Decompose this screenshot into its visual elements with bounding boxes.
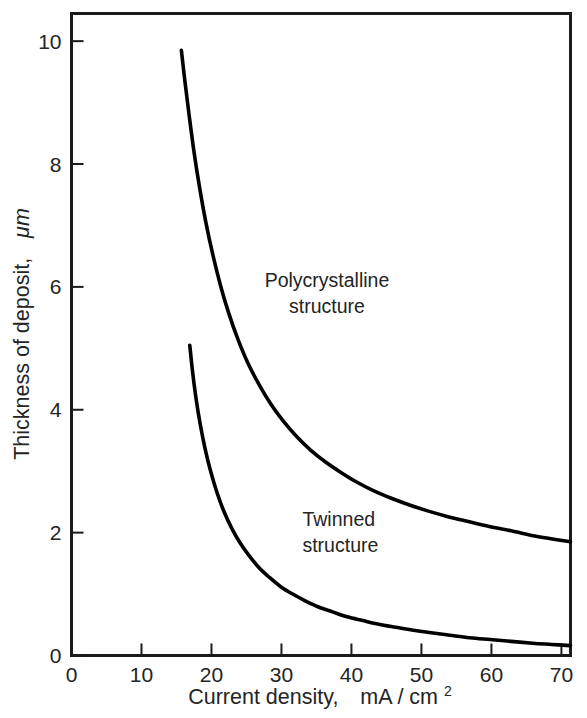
polycrystalline-label-line1: Polycrystalline [265,269,390,291]
polycrystalline-label-line2: structure [289,295,365,317]
x-axis-tick-label: 40 [340,663,363,686]
x-axis-tick-label: 30 [270,663,293,686]
y-axis-title-main: Thickness of deposit, [10,258,34,460]
x-axis-title: Current density, mA / cm 2 [188,683,452,709]
y-axis-tick-labels: 0246810 [38,30,62,667]
x-axis-ticks [141,644,561,656]
x-axis-tick-label: 60 [480,663,503,686]
x-axis-tick-labels: 010203040506070 [66,663,573,686]
x-axis-title-unit: mA / cm [360,685,438,709]
y-axis-tick-label: 10 [38,30,61,53]
y-axis-title: Thickness of deposit, μm [10,208,34,460]
x-axis-tick-label: 70 [550,663,573,686]
x-axis-title-main: Current density, [188,685,338,709]
x-axis-tick-label: 50 [410,663,433,686]
region-annotations: Polycrystalline structure Twinned struct… [265,269,390,557]
x-axis-tick-label: 20 [200,663,223,686]
x-axis-tick-label: 10 [130,663,153,686]
plot-frame [72,14,571,656]
twinned-label-line1: Twinned [302,508,375,530]
chart-canvas: 0246810 010203040506070 Polycrystalline … [0,0,587,718]
y-axis-tick-label: 4 [50,398,62,421]
y-axis-tick-label: 2 [50,521,62,544]
y-axis-tick-label: 6 [50,275,62,298]
y-axis-ticks [72,41,84,655]
y-axis-tick-label: 0 [50,644,62,667]
x-axis-tick-label: 0 [66,663,78,686]
twinned-label-line2: structure [302,534,378,556]
x-axis-title-exponent: 2 [444,683,452,699]
curve-polycrystalline-boundary [181,50,570,541]
y-axis-title-unit: μm [10,208,34,239]
y-axis-tick-label: 8 [50,153,62,176]
chart-figure: 0246810 010203040506070 Polycrystalline … [0,0,587,718]
